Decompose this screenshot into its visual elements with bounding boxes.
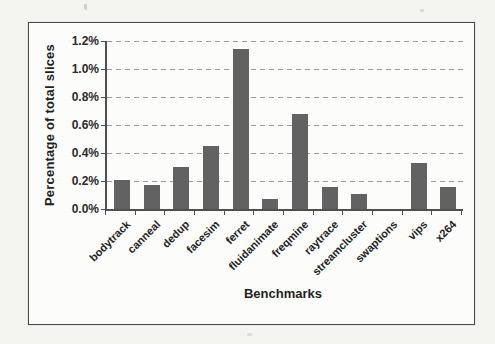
y-axis-title: Percentage of total slices bbox=[42, 35, 58, 215]
y-tick-mark bbox=[101, 153, 106, 154]
bar-bodytrack bbox=[114, 180, 130, 209]
y-tick-label: 0.2% bbox=[59, 175, 99, 187]
x-tick-mark bbox=[253, 210, 254, 215]
gridline bbox=[107, 41, 463, 42]
x-tick-mark bbox=[194, 210, 195, 215]
plot-area bbox=[105, 41, 463, 211]
x-tick-mark bbox=[283, 210, 284, 215]
x-tick-mark bbox=[342, 210, 343, 215]
x-tick-mark bbox=[164, 210, 165, 215]
y-tick-label: 0.0% bbox=[59, 203, 99, 215]
scan-speck bbox=[247, 333, 252, 336]
y-tick-label: 0.6% bbox=[59, 119, 99, 131]
bar-raytrace bbox=[322, 187, 338, 209]
y-tick-mark bbox=[101, 97, 106, 98]
bar-facesim bbox=[203, 146, 219, 209]
y-tick-label: 1.2% bbox=[59, 35, 99, 47]
scan-speck bbox=[420, 9, 424, 12]
x-tick-mark bbox=[224, 210, 225, 215]
y-tick-label: 1.0% bbox=[59, 63, 99, 75]
y-tick-mark bbox=[101, 181, 106, 182]
x-tick-mark bbox=[402, 210, 403, 215]
x-tick-mark bbox=[461, 210, 462, 215]
y-tick-label: 0.8% bbox=[59, 91, 99, 103]
gridline bbox=[107, 153, 463, 154]
gridline bbox=[107, 69, 463, 70]
gridline bbox=[107, 125, 463, 126]
y-tick-mark bbox=[101, 69, 106, 70]
bar-fluidanimate bbox=[262, 199, 278, 209]
bar-ferret bbox=[233, 49, 249, 209]
gridline bbox=[107, 97, 463, 98]
scanned-chart-figure: Percentage of total slices 0.0%0.2%0.4%0… bbox=[0, 0, 495, 344]
bar-vips bbox=[411, 163, 427, 209]
x-tick-mark bbox=[431, 210, 432, 215]
x-tick-mark bbox=[372, 210, 373, 215]
bar-streamcluster bbox=[351, 194, 367, 209]
x-tick-mark bbox=[105, 210, 106, 215]
y-tick-mark bbox=[101, 41, 106, 42]
y-tick-label: 0.4% bbox=[59, 147, 99, 159]
bar-x264 bbox=[440, 187, 456, 209]
x-axis-title: Benchmarks bbox=[105, 286, 461, 301]
chart-frame: Percentage of total slices 0.0%0.2%0.4%0… bbox=[28, 22, 475, 325]
x-tick-mark bbox=[313, 210, 314, 215]
x-tick-mark bbox=[135, 210, 136, 215]
bar-dedup bbox=[173, 167, 189, 209]
scan-speck bbox=[84, 4, 87, 10]
bar-canneal bbox=[144, 185, 160, 209]
y-tick-mark bbox=[101, 125, 106, 126]
bar-freqmine bbox=[292, 114, 308, 209]
